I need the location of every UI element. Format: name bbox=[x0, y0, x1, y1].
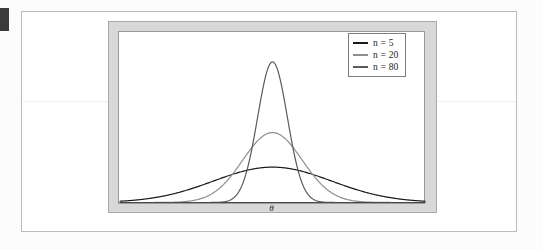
page-edge-marker bbox=[0, 8, 9, 31]
legend: n = 5 n = 20 n = 80 bbox=[348, 33, 406, 77]
x-axis-label: θ bbox=[118, 203, 425, 214]
legend-item: n = 5 bbox=[353, 37, 399, 49]
legend-label-n80: n = 80 bbox=[373, 62, 399, 72]
legend-item: n = 20 bbox=[353, 49, 399, 61]
legend-swatch-n5 bbox=[353, 42, 368, 44]
curve-group bbox=[120, 62, 425, 203]
legend-swatch-n80 bbox=[353, 66, 368, 68]
legend-item: n = 80 bbox=[353, 61, 399, 73]
legend-label-n5: n = 5 bbox=[373, 38, 394, 48]
legend-swatch-n20 bbox=[353, 54, 368, 56]
density-curve bbox=[120, 167, 425, 201]
legend-label-n20: n = 20 bbox=[373, 50, 399, 60]
